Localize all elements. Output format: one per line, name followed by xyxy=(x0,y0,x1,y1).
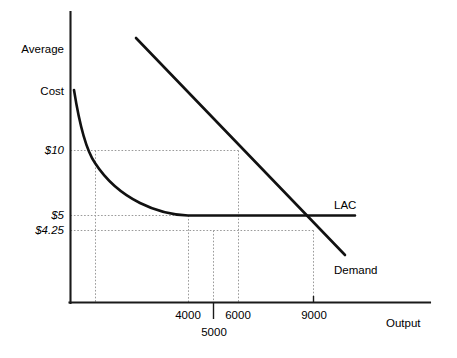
x-tick-label-4000: 4000 xyxy=(162,308,214,322)
x-tick-label-5000: 5000 xyxy=(188,325,240,339)
average-cost-output-chart: Average Cost $10 $5 $4.25 4000 6000 9000… xyxy=(0,0,457,358)
y-axis-title-line1: Average xyxy=(6,42,64,56)
y-axis-title-line2: Cost xyxy=(6,84,64,98)
y-tick-label-425: $4.25 xyxy=(8,223,64,237)
demand-curve-label: Demand xyxy=(334,263,377,277)
chart-canvas xyxy=(0,0,457,358)
x-tick-label-9000: 9000 xyxy=(288,308,340,322)
y-tick-label-10: $10 xyxy=(8,143,64,157)
guide-lines xyxy=(71,151,314,303)
lac-curve xyxy=(74,90,355,216)
x-tick-label-6000: 6000 xyxy=(212,308,264,322)
demand-curve xyxy=(136,38,345,255)
y-axis-title: Average Cost xyxy=(6,14,64,126)
y-tick-label-5: $5 xyxy=(8,208,64,222)
lac-curve-label: LAC xyxy=(334,198,356,212)
x-axis-title: Output xyxy=(386,316,421,330)
